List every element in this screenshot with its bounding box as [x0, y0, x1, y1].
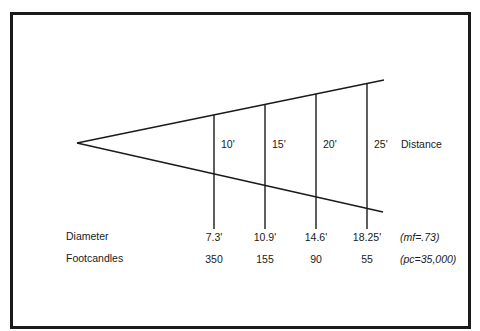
footcandles-note: (pc=35,000) [400, 253, 456, 265]
beam-lower-edge [77, 143, 383, 212]
distance-label-25: 25' [374, 138, 388, 150]
footcandles-value-25: 55 [361, 253, 373, 265]
diameter-value-15: 10.9' [254, 231, 276, 243]
diameter-value-25: 18.25' [353, 231, 381, 243]
distance-label-20: 20' [323, 138, 337, 150]
beam-spread-diagram [0, 0, 480, 331]
distance-label-10: 10' [221, 138, 235, 150]
footcandles-value-10: 350 [205, 253, 223, 265]
footcandles-value-20: 90 [310, 253, 322, 265]
diameter-value-20: 14.6' [305, 231, 327, 243]
diameter-note: (mf=.73) [400, 231, 439, 243]
footcandles-value-15: 155 [256, 253, 274, 265]
footcandles-row-label: Footcandles [66, 252, 123, 264]
diameter-value-10: 7.3' [206, 231, 223, 243]
distance-axis-label: Distance [401, 138, 442, 150]
distance-label-15: 15' [272, 138, 286, 150]
diameter-row-label: Diameter [66, 230, 109, 242]
beam-upper-edge [77, 80, 384, 143]
